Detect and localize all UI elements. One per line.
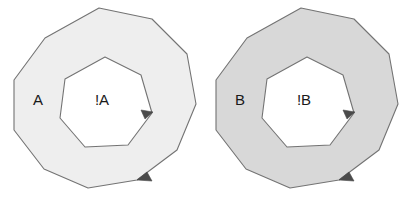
outer-region-label-a: A <box>33 91 43 108</box>
region-diagram-svg: A!AB!B <box>0 0 409 207</box>
diagram-a: A!A <box>14 8 196 188</box>
outer-region-label-b: B <box>235 91 245 108</box>
diagram-canvas: A!AB!B <box>0 0 409 207</box>
diagram-b: B!B <box>216 8 398 188</box>
inner-region-label-a: !A <box>95 91 109 108</box>
inner-region-label-b: !B <box>297 91 311 108</box>
